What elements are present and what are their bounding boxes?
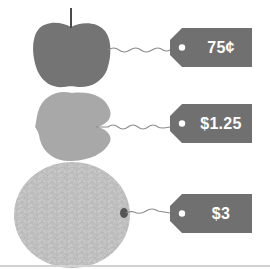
price-tag-apple: 75¢ (170, 28, 252, 67)
bottom-divider (0, 265, 270, 267)
price-label: $1.25 (194, 104, 248, 143)
fruit-price-diagram: 75¢ $1.25 $3 (0, 0, 270, 269)
stem-icon (70, 8, 72, 28)
string-peach (96, 125, 170, 129)
price-tag-cantaloupe: $3 (170, 194, 252, 233)
price-label: $3 (194, 194, 248, 233)
apple-icon (33, 8, 110, 87)
cantaloupe-icon (14, 162, 130, 268)
string-apple (108, 48, 170, 52)
price-label: 75¢ (194, 28, 248, 67)
price-tag-peach: $1.25 (170, 104, 252, 143)
